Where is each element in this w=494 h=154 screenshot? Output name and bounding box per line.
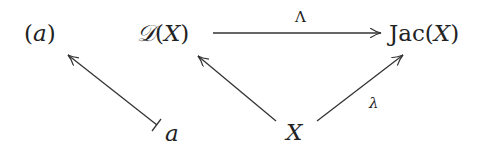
node-DX: 𝒟(X) [137, 22, 189, 45]
var-X: X [434, 20, 450, 46]
arrow-lambda [317, 55, 403, 121]
node-a-paren: (a) [24, 22, 56, 45]
var-a: a [165, 120, 179, 146]
node-X: X [286, 121, 302, 144]
close-paren: ) [47, 20, 56, 46]
calligraphic-D: 𝒟 [137, 20, 155, 46]
mapsto-bar [152, 119, 161, 131]
label-Lambda: Λ [295, 10, 306, 25]
open-paren: ( [24, 20, 33, 46]
open-paren: ( [155, 20, 164, 46]
open-paren: ( [425, 20, 434, 46]
var-X: X [164, 20, 180, 46]
jac-label: Jac [389, 20, 425, 46]
label-lambda: λ [369, 96, 379, 111]
arrow-mapsto [68, 55, 157, 125]
node-JacX: Jac(X) [389, 22, 459, 45]
var-X: X [286, 119, 302, 145]
close-paren: ) [450, 20, 459, 46]
arrow-X-to-DX [198, 56, 276, 121]
var-a: a [33, 20, 47, 46]
node-a: a [165, 122, 179, 145]
close-paren: ) [180, 20, 189, 46]
